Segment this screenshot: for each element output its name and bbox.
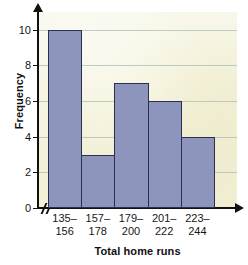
bar [148,101,182,208]
y-axis-tick-label: 8 [25,60,31,71]
y-axis-tick-label: 0 [25,203,31,214]
bar [181,137,215,208]
histogram-chart: 0246810 135–156157–178179–200201–222223–… [0,0,248,265]
y-axis-line [37,10,39,208]
bar [114,83,148,208]
y-axis-title: Frequency [13,46,25,156]
x-axis-tick-label-line: 244 [175,225,220,238]
y-axis-tick-label: 2 [25,167,31,178]
y-axis-tick [33,65,38,66]
y-axis-tick-label: 10 [19,25,31,36]
x-axis-tick-label-line: 223– [175,212,220,225]
y-axis-tick [33,137,38,138]
y-axis-tick [33,172,38,173]
y-axis-tick [33,208,38,209]
y-axis-tick [33,101,38,102]
bar [48,30,82,208]
x-axis-tick-label: 223–244 [175,212,220,238]
x-axis-title: Total home runs [38,245,237,257]
y-axis-tick [33,30,38,31]
y-axis-tick-label: 4 [25,132,31,143]
y-axis-arrow-icon [33,3,43,12]
bar-series [38,12,237,208]
x-axis-tick-labels: 135–156157–178179–200201–222223–244 [38,212,237,244]
y-axis-tick-label: 6 [25,96,31,107]
bar [81,155,115,208]
